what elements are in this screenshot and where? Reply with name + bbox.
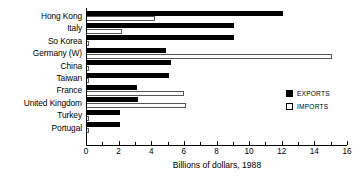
category-axis-line [86, 8, 87, 145]
axis-tick-label: 16 [342, 147, 351, 157]
bar-group [86, 60, 348, 72]
bar-group [86, 72, 348, 84]
bar-exports [86, 11, 283, 16]
bar-exports [86, 23, 234, 28]
legend-swatch-exports-icon [286, 90, 293, 97]
bar-exports [86, 97, 138, 102]
category-label: United Kingdom [0, 97, 84, 109]
plot-area [86, 10, 348, 134]
category-label: Hong Kong [0, 10, 84, 22]
axis-minor-tick [200, 142, 201, 145]
axis-tick [282, 141, 283, 145]
axis-minor-tick [168, 142, 169, 145]
axis-minor-tick [102, 142, 103, 145]
category-axis-labels: Hong Kong Italy So Korea Germany (W) Chi… [0, 10, 84, 134]
category-label: Taiwan [0, 72, 84, 84]
axis-minor-tick [265, 142, 266, 145]
bar-imports [86, 29, 122, 34]
legend-swatch-imports-icon [286, 103, 293, 110]
axis-tick-label: 6 [182, 147, 187, 157]
axis-tick-label: 0 [84, 147, 89, 157]
axis-tick-label: 8 [214, 147, 219, 157]
category-label: Turkey [0, 109, 84, 121]
legend-item-exports: EXPORTS [286, 88, 330, 99]
bar-imports [86, 103, 186, 108]
axis-tick [151, 141, 152, 145]
bar-imports [86, 91, 184, 96]
axis-tick-label: 12 [277, 147, 286, 157]
axis-tick-label: 14 [310, 147, 319, 157]
chart-legend: EXPORTS IMPORTS [286, 88, 330, 114]
bar-group [86, 35, 348, 47]
bar-exports [86, 110, 120, 115]
axis-tick [217, 141, 218, 145]
axis-minor-tick [135, 142, 136, 145]
axis-tick [184, 141, 185, 145]
bar-exports [86, 122, 120, 127]
bar-imports [86, 16, 155, 21]
category-label: Portugal [0, 122, 84, 134]
legend-label-imports: IMPORTS [297, 103, 328, 110]
legend-item-imports: IMPORTS [286, 101, 330, 112]
bar-chart: Hong Kong Italy So Korea Germany (W) Chi… [0, 0, 360, 179]
axis-minor-tick [233, 142, 234, 145]
category-label: France [0, 84, 84, 96]
bar-exports [86, 60, 171, 65]
axis-tick [314, 141, 315, 145]
bar-group [86, 47, 348, 59]
bar-exports [86, 73, 169, 78]
legend-label-exports: EXPORTS [297, 90, 330, 97]
bar-imports [86, 54, 332, 59]
bar-group [86, 122, 348, 134]
value-axis-line [86, 145, 347, 146]
axis-title: Billions of dollars, 1988 [86, 160, 348, 170]
bar-exports [86, 48, 166, 53]
axis-tick-label: 4 [149, 147, 154, 157]
axis-minor-tick [331, 142, 332, 145]
category-label: So Korea [0, 35, 84, 47]
axis-tick [86, 141, 87, 145]
bar-group [86, 22, 348, 34]
axis-tick [249, 141, 250, 145]
axis-tick-label: 10 [245, 147, 254, 157]
bar-exports [86, 35, 234, 40]
axis-tick [347, 141, 348, 145]
axis-tick [119, 141, 120, 145]
category-label: China [0, 60, 84, 72]
axis-minor-tick [298, 142, 299, 145]
category-label: Germany (W) [0, 47, 84, 59]
bar-exports [86, 85, 137, 90]
axis-tick-label: 2 [116, 147, 121, 157]
category-label: Italy [0, 22, 84, 34]
bar-group [86, 10, 348, 22]
